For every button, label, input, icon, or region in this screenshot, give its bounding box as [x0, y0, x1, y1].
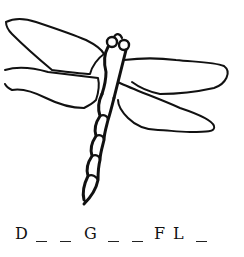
word-puzzle: D G F L [0, 224, 244, 248]
puzzle-letter-l: L [173, 224, 184, 244]
puzzle-blank [132, 241, 143, 242]
right-forewing [124, 59, 228, 95]
dragonfly-icon [0, 0, 244, 210]
abdomen [83, 94, 114, 204]
right-hindwing [118, 82, 214, 132]
thorax [102, 47, 126, 98]
puzzle-blank [196, 241, 207, 242]
puzzle-blank [108, 241, 119, 242]
left-forewing [6, 19, 104, 74]
puzzle-letter-g: G [84, 224, 97, 244]
puzzle-blank [36, 241, 47, 242]
right-eye [119, 40, 129, 50]
puzzle-letter-d: D [15, 224, 28, 244]
puzzle-letter-f: F [154, 224, 165, 244]
dragonfly-illustration [0, 0, 244, 210]
puzzle-blank [60, 241, 71, 242]
left-eye [107, 37, 117, 47]
